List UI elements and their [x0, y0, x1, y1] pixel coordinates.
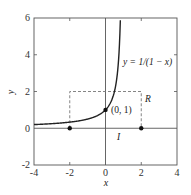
curve-label: y = 1/(1 − x)	[122, 57, 172, 68]
rect-label: R	[144, 94, 151, 104]
y-tick-labels: -2 0 2 4 6	[22, 12, 30, 170]
x-axis-label: x	[103, 177, 109, 188]
x-tick-label: -2	[66, 167, 74, 178]
x-tick-label: 4	[175, 167, 180, 178]
interval-label: I	[116, 132, 121, 142]
y-tick-label: 2	[25, 86, 30, 97]
y-axis-label: y	[5, 89, 16, 95]
point-neg2-0	[68, 126, 72, 130]
point-2-0	[139, 126, 143, 130]
chart: -4 -2 0 2 4 -2 0 2 4 6 x y y = 1/(1 − x)…	[0, 0, 191, 195]
x-tick-label: 2	[139, 167, 144, 178]
y-tick-label: -2	[22, 159, 30, 170]
point-0-1	[103, 108, 107, 112]
y-tick-label: 0	[25, 123, 30, 134]
x-tick-label: -4	[30, 167, 38, 178]
y-tick-label: 4	[25, 49, 30, 60]
y-tick-label: 6	[25, 12, 30, 23]
point-label: (0, 1)	[111, 105, 132, 116]
